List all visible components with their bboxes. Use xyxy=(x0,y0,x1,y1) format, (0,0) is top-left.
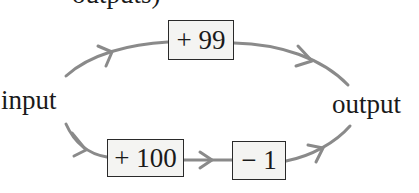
output-node-label: output xyxy=(332,91,401,118)
arrow-input-to-plus99 xyxy=(66,42,168,76)
operation-box-minus-1: − 1 xyxy=(232,141,286,180)
arrow-input-to-plus100 xyxy=(66,124,107,157)
operation-box-plus-100: + 100 xyxy=(107,139,184,177)
operation-box-plus-99: + 99 xyxy=(168,20,234,60)
input-node-label: input xyxy=(1,87,57,114)
diagram-canvas: outputs) input output + 99 + 100 − 1 xyxy=(0,0,419,193)
arrow-plus99-to-output xyxy=(234,43,348,85)
